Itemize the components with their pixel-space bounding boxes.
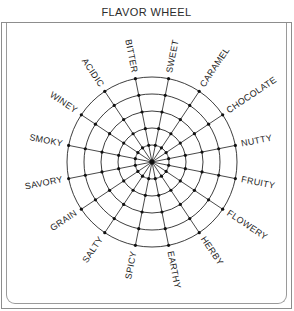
flavor-wheel-screen: FLAVOR WHEEL SWEETCARAMELCHOCOLATENUTTYF… [0,0,294,311]
title-bar: FLAVOR WHEEL [1,1,292,23]
page-title: FLAVOR WHEEL [101,6,191,18]
wheel-panel [6,23,287,304]
